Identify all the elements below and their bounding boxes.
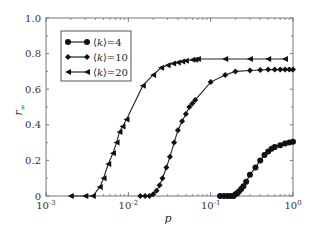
x-tick-label: 10-1 (201, 199, 221, 211)
legend-label: ⟨k⟩=10 (93, 52, 128, 63)
y-tick-label: 0.4 (25, 119, 41, 130)
legend: ⟨k⟩=4⟨k⟩=10⟨k⟩=20 (61, 31, 131, 81)
x-tick-label: 10-3 (36, 199, 56, 211)
x-axis-label: p (164, 212, 171, 225)
legend-label: ⟨k⟩=20 (93, 67, 128, 78)
series-1 (217, 139, 296, 199)
x-tick-label: 10-2 (119, 199, 139, 211)
series-2 (137, 67, 296, 199)
y-axis-label: r∞ (12, 104, 27, 115)
y-tick-label: 1.0 (25, 13, 41, 24)
y-tick-label: 0.6 (25, 84, 41, 95)
legend-label: ⟨k⟩=4 (93, 37, 122, 48)
y-tick-label: 0.2 (25, 155, 41, 166)
y-tick-label: 0.8 (25, 48, 41, 59)
chart: 00.20.40.60.81.010-310-210-1100 p r∞ ⟨k⟩… (0, 0, 314, 234)
x-tick-label: 100 (284, 199, 301, 211)
